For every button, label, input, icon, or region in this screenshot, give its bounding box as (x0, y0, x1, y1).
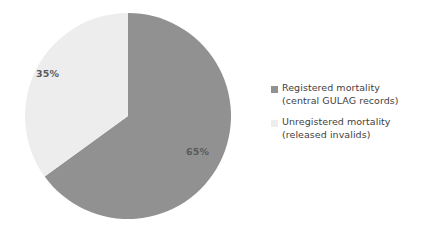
legend-item-registered-mortality[interactable]: Registered mortality (central GULAG reco… (271, 82, 419, 107)
legend-label-registered: Registered mortality (central GULAG reco… (282, 82, 419, 107)
pie-chart-graphic (25, 13, 231, 219)
legend-label-registered-line2: (central GULAG records) (282, 95, 419, 108)
legend-swatch-icon-unregistered (271, 120, 278, 127)
legend-label-unregistered-line2: (released invalids) (282, 129, 419, 142)
legend-item-unregistered-mortality[interactable]: Unregistered mortality (released invalid… (271, 116, 419, 141)
pie-svg (25, 13, 231, 219)
legend-label-unregistered-line1: Unregistered mortality (282, 116, 419, 129)
pie-chart-figure: 35% 65% Registered mortality (central GU… (0, 0, 421, 226)
legend-label-unregistered: Unregistered mortality (released invalid… (282, 116, 419, 141)
legend-swatch-icon-registered (271, 86, 278, 93)
legend-label-registered-line1: Registered mortality (282, 82, 419, 95)
pie-label-registered-mortality: 65% (186, 147, 209, 157)
chart-legend: Registered mortality (central GULAG reco… (271, 82, 419, 150)
pie-label-unregistered-mortality: 35% (36, 69, 59, 79)
